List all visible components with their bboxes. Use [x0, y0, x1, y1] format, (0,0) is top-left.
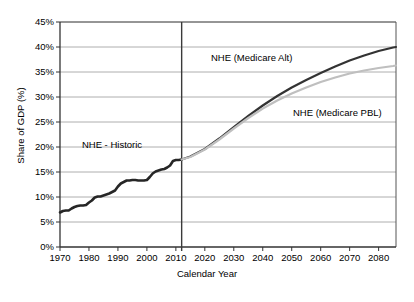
chart-container: 0%5%10%15%20%25%30%35%40%45% 19701980199… [0, 0, 414, 302]
y-tick-label: 0% [20, 242, 54, 252]
y-tick-label: 5% [20, 217, 54, 227]
annotation-medicare-pbl: NHE (Medicare PBL) [293, 107, 382, 118]
y-tick-label: 45% [20, 17, 54, 27]
y-tick-label: 40% [20, 42, 54, 52]
y-axis-title-text: Share of GDP (%) [15, 56, 26, 196]
x-tick-label: 2080 [359, 252, 399, 263]
x-axis-title: Calendar Year [0, 268, 414, 279]
annotation-nhe-historic: NHE - Historic [82, 139, 142, 150]
y-axis-title: Share of GDP (%) [10, 60, 30, 200]
annotation-medicare-alt: NHE (Medicare Alt) [211, 52, 292, 63]
